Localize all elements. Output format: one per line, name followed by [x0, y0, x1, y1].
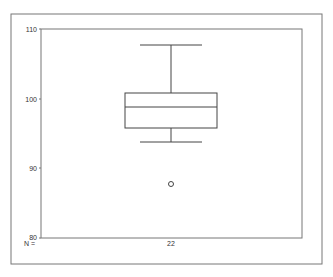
y-axis: 110 100 90 80: [25, 26, 41, 242]
box-series: [125, 45, 217, 187]
y-tick-100: 100: [25, 96, 37, 103]
n-label: N =: [24, 240, 35, 247]
iqr-box: [125, 93, 217, 128]
y-tick-90: 90: [29, 165, 37, 172]
y-tick-110: 110: [26, 26, 37, 33]
boxplot-chart: 110 100 90 80 N = 22: [0, 0, 333, 277]
outlier-point: [169, 182, 174, 187]
outer-frame: [11, 14, 322, 264]
n-value: 22: [167, 240, 175, 247]
